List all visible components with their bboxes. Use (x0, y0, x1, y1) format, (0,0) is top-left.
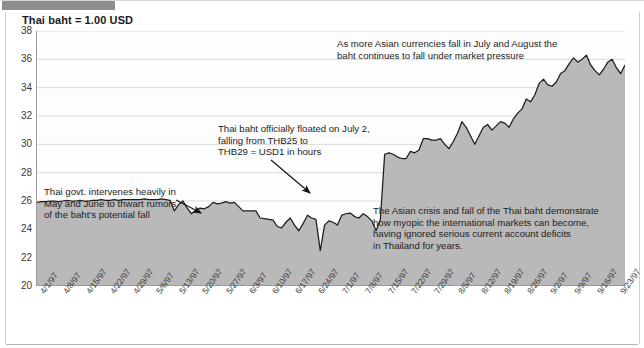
annotation-currencies: As more Asian currencies fall in July an… (337, 38, 557, 61)
chart-page: Thai baht = 1.00 USD 2022242628303234363… (0, 0, 644, 348)
annotation-crisis: The Asian crisis and fall of the Thai ba… (373, 205, 599, 251)
page-frame-bottom (6, 344, 638, 345)
y-tick-label: 28 (4, 167, 32, 178)
y-tick-label: 30 (4, 138, 32, 149)
y-tick-label: 20 (4, 280, 32, 291)
annotation-float: Thai baht officially floated on July 2, … (218, 123, 370, 158)
y-tick-label: 26 (4, 195, 32, 206)
redaction-bar (2, 1, 115, 10)
page-title: Thai baht = 1.00 USD (22, 14, 133, 26)
y-tick-label: 38 (4, 25, 32, 36)
page-frame-right (639, 12, 640, 344)
y-tick-label: 34 (4, 82, 32, 93)
y-tick-label: 32 (4, 110, 32, 121)
annotation-intervention: Thai govt. intervenes heavily in May and… (44, 186, 176, 221)
y-tick-label: 36 (4, 53, 32, 64)
y-tick-label: 24 (4, 223, 32, 234)
y-tick-label: 22 (4, 252, 32, 263)
